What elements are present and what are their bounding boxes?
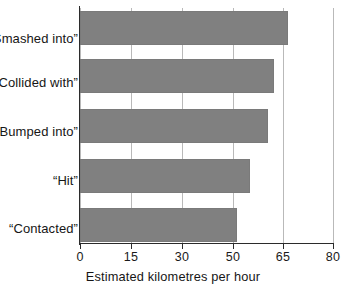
x-tick-label-65: 65 (276, 250, 290, 264)
bar-bumped-into (80, 109, 268, 143)
category-label-contacted: “Contacted” (9, 221, 78, 236)
x-tick-label-80: 80 (326, 250, 340, 264)
category-label-bumped-into: “Bumped into” (0, 124, 78, 139)
bar-collided-with (80, 59, 274, 93)
x-tick-label-30: 30 (175, 250, 189, 264)
tick-mark-50 (233, 244, 234, 249)
bar-hit (80, 159, 250, 193)
bar-smashed-into (80, 11, 288, 45)
x-axis-line (79, 243, 334, 244)
bar-chart: 0 15 30 50 65 80 “Smashed into” “Collide… (0, 0, 346, 288)
gridline-80 (333, 8, 334, 243)
category-label-hit: “Hit” (53, 173, 78, 188)
category-label-smashed-into: “Smashed into” (0, 31, 78, 46)
category-label-collided-with: “Collided with” (0, 75, 78, 90)
tick-mark-30 (182, 244, 183, 249)
x-tick-label-0: 0 (76, 250, 83, 264)
x-tick-label-15: 15 (124, 250, 138, 264)
x-axis-title: Estimated kilometres per hour (0, 269, 346, 284)
tick-mark-65 (283, 244, 284, 249)
tick-mark-0 (80, 244, 81, 249)
tick-mark-15 (131, 244, 132, 249)
x-tick-label-50: 50 (226, 250, 240, 264)
bar-contacted (80, 208, 237, 242)
tick-mark-80 (333, 244, 334, 249)
y-axis-line (79, 6, 80, 245)
